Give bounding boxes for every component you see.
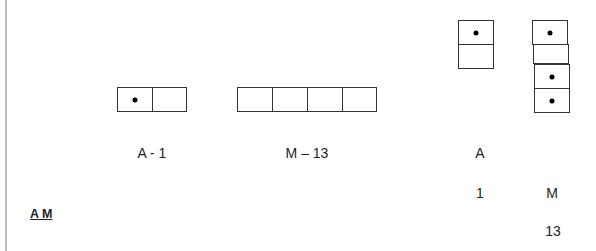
a-vertical-cell-2 (458, 44, 494, 69)
m-13-cell-3 (307, 87, 343, 112)
m-13-cell-2 (272, 87, 308, 112)
dot-icon (550, 74, 555, 79)
m-vertical-cell-4 (534, 88, 570, 113)
m-13-label: M – 13 (286, 145, 329, 161)
a-vertical-sublabel: 1 (476, 185, 484, 201)
a-vertical-cell-1 (458, 20, 494, 45)
dot-icon (133, 97, 138, 102)
m-vertical-sublabel: 13 (545, 223, 561, 239)
a-vertical-label: A (475, 145, 484, 161)
dot-icon (474, 30, 479, 35)
left-border-rule (5, 0, 7, 251)
a-1-cell-2 (152, 87, 187, 112)
dot-icon (548, 30, 553, 35)
m-vertical-label: M (546, 185, 558, 201)
diagram-title: A M (30, 207, 52, 221)
m-13-cell-1 (237, 87, 273, 112)
dot-icon (550, 98, 555, 103)
m-vertical-cell-1 (532, 20, 568, 45)
m-vertical-cell-2 (533, 44, 569, 64)
m-13-cell-4 (342, 87, 377, 112)
a-1-cell-1 (117, 87, 153, 112)
m-vertical-cell-3 (534, 64, 570, 89)
a-1-label: A - 1 (138, 145, 167, 161)
